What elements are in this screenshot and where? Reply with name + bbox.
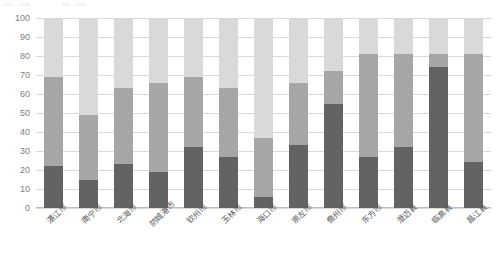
y-tick-label: 60 xyxy=(20,90,30,99)
bar-slot xyxy=(421,18,456,208)
bar-segment-series-2[interactable] xyxy=(359,54,379,157)
bar-slot xyxy=(456,18,491,208)
bar-segment-series-1[interactable] xyxy=(324,104,344,209)
bar-segment-series-1[interactable] xyxy=(289,145,309,208)
bar-slot xyxy=(141,18,176,208)
bar-slot xyxy=(211,18,246,208)
y-tick-label: 30 xyxy=(20,147,30,156)
y-tick-label: 0 xyxy=(25,204,30,213)
bar-segment-series-1[interactable] xyxy=(219,157,239,208)
bar-segment-series-2[interactable] xyxy=(254,138,274,197)
bar-slot xyxy=(176,18,211,208)
stacked-bar[interactable] xyxy=(429,18,449,208)
bar-segment-series-3[interactable] xyxy=(149,18,169,83)
x-label-slot: 湛江市 xyxy=(36,208,71,262)
stacked-bar[interactable] xyxy=(79,18,99,208)
bar-segment-series-3[interactable] xyxy=(429,18,449,54)
stacked-bar-chart: 0102030405060708090100 湛江市南宁市北海市防城港市钦州市玉… xyxy=(0,0,499,262)
y-axis-tick-labels: 0102030405060708090100 xyxy=(0,18,34,208)
stacked-bar[interactable] xyxy=(464,18,484,208)
bar-segment-series-1[interactable] xyxy=(114,164,134,208)
stacked-bar[interactable] xyxy=(149,18,169,208)
bar-slot xyxy=(386,18,421,208)
bar-segment-series-2[interactable] xyxy=(394,54,414,147)
bar-segment-series-2[interactable] xyxy=(184,77,204,147)
y-tick-label: 70 xyxy=(20,71,30,80)
stacked-bar[interactable] xyxy=(289,18,309,208)
bar-segment-series-2[interactable] xyxy=(44,77,64,166)
bar-segment-series-3[interactable] xyxy=(79,18,99,115)
stacked-bar[interactable] xyxy=(359,18,379,208)
bar-segment-series-3[interactable] xyxy=(394,18,414,54)
bar-segment-series-2[interactable] xyxy=(464,54,484,162)
x-label-slot: 澄迈县 xyxy=(386,208,421,262)
x-label-slot: 东方市 xyxy=(351,208,386,262)
bar-slot xyxy=(71,18,106,208)
bar-segment-series-1[interactable] xyxy=(44,166,64,208)
y-tick-label: 40 xyxy=(20,128,30,137)
bar-segment-series-1[interactable] xyxy=(429,67,449,208)
stacked-bar[interactable] xyxy=(219,18,239,208)
bar-segment-series-2[interactable] xyxy=(114,88,134,164)
bar-segment-series-2[interactable] xyxy=(149,83,169,172)
bar-segment-series-1[interactable] xyxy=(394,147,414,208)
x-label-slot: 玉林市 xyxy=(211,208,246,262)
bar-segment-series-3[interactable] xyxy=(44,18,64,77)
x-label-slot: 防城港市 xyxy=(141,208,176,262)
bar-segment-series-3[interactable] xyxy=(184,18,204,77)
bar-series-group xyxy=(36,18,491,208)
bar-segment-series-1[interactable] xyxy=(184,147,204,208)
stacked-bar[interactable] xyxy=(114,18,134,208)
x-label-slot: 昌江县 xyxy=(456,208,491,262)
bar-segment-series-2[interactable] xyxy=(219,88,239,156)
bar-segment-series-2[interactable] xyxy=(79,115,99,180)
y-tick-label: 90 xyxy=(20,33,30,42)
x-label-slot: 海口市 xyxy=(246,208,281,262)
bar-segment-series-2[interactable] xyxy=(289,83,309,146)
bar-slot xyxy=(316,18,351,208)
x-label-slot: 钦州市 xyxy=(176,208,211,262)
y-tick-label: 10 xyxy=(20,185,30,194)
bar-segment-series-2[interactable] xyxy=(429,54,449,67)
bar-slot xyxy=(106,18,141,208)
x-label-slot: 崇左市 xyxy=(281,208,316,262)
bar-segment-series-1[interactable] xyxy=(149,172,169,208)
y-tick-label: 80 xyxy=(20,52,30,61)
top-artifact-strip xyxy=(0,0,499,12)
bar-segment-series-3[interactable] xyxy=(464,18,484,54)
x-label-slot: 南宁市 xyxy=(71,208,106,262)
y-tick-label: 50 xyxy=(20,109,30,118)
stacked-bar[interactable] xyxy=(324,18,344,208)
bar-slot xyxy=(36,18,71,208)
y-tick-label: 20 xyxy=(20,166,30,175)
x-label-slot: 北海市 xyxy=(106,208,141,262)
bar-slot xyxy=(281,18,316,208)
bar-slot xyxy=(351,18,386,208)
bar-segment-series-1[interactable] xyxy=(359,157,379,208)
x-label-slot: 儋州市 xyxy=(316,208,351,262)
stacked-bar[interactable] xyxy=(254,18,274,208)
bar-segment-series-3[interactable] xyxy=(114,18,134,88)
bar-segment-series-1[interactable] xyxy=(464,162,484,208)
bar-segment-series-3[interactable] xyxy=(254,18,274,138)
stacked-bar[interactable] xyxy=(184,18,204,208)
stacked-bar[interactable] xyxy=(44,18,64,208)
x-label-slot: 临高县 xyxy=(421,208,456,262)
bar-segment-series-3[interactable] xyxy=(289,18,309,83)
bar-segment-series-2[interactable] xyxy=(324,71,344,103)
plot-area xyxy=(36,18,491,208)
x-axis-category-labels: 湛江市南宁市北海市防城港市钦州市玉林市海口市崇左市儋州市东方市澄迈县临高县昌江县 xyxy=(36,208,491,262)
bar-segment-series-3[interactable] xyxy=(219,18,239,88)
stacked-bar[interactable] xyxy=(394,18,414,208)
bar-segment-series-3[interactable] xyxy=(359,18,379,54)
bar-segment-series-3[interactable] xyxy=(324,18,344,71)
bar-slot xyxy=(246,18,281,208)
y-tick-label: 100 xyxy=(15,14,30,23)
